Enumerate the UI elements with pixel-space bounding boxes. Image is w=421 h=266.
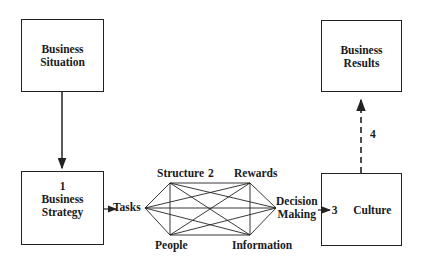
step-number-4: 4: [370, 128, 376, 141]
results-line1: Business: [322, 44, 401, 57]
node-tasks: Tasks: [113, 201, 141, 214]
culture-box: 3 Culture: [321, 173, 402, 246]
step-number-2: 2: [208, 167, 214, 180]
business-strategy-box: 1 Business Strategy: [21, 171, 104, 245]
node-rewards: Rewards: [234, 167, 277, 180]
node-information: Information: [232, 239, 292, 252]
node-decision-making: Decision Making: [276, 195, 318, 221]
results-line2: Results: [322, 57, 401, 70]
situation-line2: Situation: [22, 56, 103, 69]
strategy-line2: Strategy: [22, 206, 103, 219]
culture-number: 3: [332, 204, 338, 216]
situation-line1: Business: [22, 43, 103, 56]
strategy-line1: Business: [22, 193, 103, 206]
interaction-network: [145, 183, 276, 235]
node-structure: Structure: [157, 167, 204, 180]
decision-line2: Making: [276, 208, 318, 221]
culture-label: Culture: [353, 204, 391, 216]
strategy-number: 1: [22, 180, 103, 193]
business-situation-box: Business Situation: [21, 19, 104, 92]
business-results-box: Business Results: [321, 20, 402, 92]
decision-line1: Decision: [276, 195, 318, 208]
node-people: People: [155, 239, 188, 252]
